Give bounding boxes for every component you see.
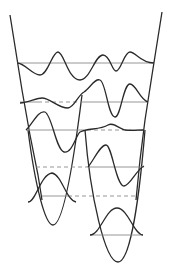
outer-well-left-wall <box>10 15 42 200</box>
wavefunction-top <box>17 52 154 80</box>
left-inner-well <box>28 95 82 225</box>
wavefunction-2 <box>20 80 148 117</box>
outer-well-right-wall <box>136 12 162 200</box>
wavefunction-4-right <box>88 145 144 186</box>
potential-well-diagram <box>0 0 171 271</box>
